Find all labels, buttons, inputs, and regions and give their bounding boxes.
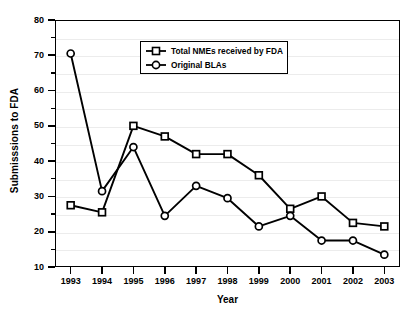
gridline	[56, 250, 399, 251]
y-axis-tick	[48, 19, 55, 21]
y-axis-tick	[48, 160, 55, 162]
y-axis-tick-label: 30	[18, 192, 44, 201]
x-axis-tick	[70, 267, 72, 274]
y-axis-tick	[48, 90, 55, 92]
x-axis-tick-label: 2003	[364, 277, 404, 286]
gridline	[56, 145, 399, 146]
y-axis-tick	[48, 125, 55, 127]
y-axis-minor-tick	[51, 213, 55, 214]
gridline	[56, 92, 399, 93]
x-axis-tick	[227, 267, 229, 274]
legend-marker-square-icon	[145, 45, 167, 57]
x-axis-tick	[101, 267, 103, 274]
y-axis-tick-label: 50	[18, 121, 44, 130]
x-axis-title: Year	[55, 294, 400, 305]
y-axis-tick-label: 80	[18, 16, 44, 25]
legend-marker-circle-icon	[145, 59, 167, 71]
chart-figure: Submisssions to FDA 10203040506070801993…	[0, 0, 415, 316]
gridline	[56, 109, 399, 110]
gridline	[56, 233, 399, 234]
y-axis-tick-label: 70	[18, 51, 44, 60]
legend-item-total-nmes: Total NMEs received by FDA	[145, 44, 283, 58]
y-axis-tick-label: 20	[18, 227, 44, 236]
gridline	[56, 215, 399, 216]
gridline	[56, 180, 399, 181]
y-axis-tick	[48, 54, 55, 56]
x-axis-tick	[258, 267, 260, 274]
y-axis-tick-label: 40	[18, 157, 44, 166]
y-axis-minor-tick	[51, 249, 55, 250]
y-axis-minor-tick	[51, 108, 55, 109]
y-axis-tick	[48, 196, 55, 198]
x-axis-tick	[164, 267, 166, 274]
y-axis-title-text: Submisssions to FDA	[10, 87, 21, 192]
x-axis-tick	[195, 267, 197, 274]
y-axis-tick	[48, 266, 55, 268]
y-axis-minor-tick	[51, 72, 55, 73]
y-axis-tick-label: 10	[18, 263, 44, 272]
x-axis-tick	[384, 267, 386, 274]
legend-label-original-blas: Original BLAs	[171, 60, 226, 70]
x-axis-tick	[321, 267, 323, 274]
legend-label-total-nmes: Total NMEs received by FDA	[171, 46, 283, 56]
y-axis-minor-tick	[51, 178, 55, 179]
x-axis-tick	[289, 267, 291, 274]
chart-legend: Total NMEs received by FDA Original BLAs	[140, 41, 288, 74]
y-axis-title: Submisssions to FDA	[0, 0, 30, 280]
gridline	[56, 127, 399, 128]
gridline	[56, 74, 399, 75]
y-axis-minor-tick	[51, 143, 55, 144]
gridline	[56, 162, 399, 163]
x-axis-tick	[352, 267, 354, 274]
y-axis-tick	[48, 231, 55, 233]
legend-item-original-blas: Original BLAs	[145, 58, 226, 72]
x-axis-tick	[133, 267, 135, 274]
y-axis-minor-tick	[51, 37, 55, 38]
gridline	[56, 39, 399, 40]
y-axis-tick-label: 60	[18, 86, 44, 95]
gridline	[56, 197, 399, 198]
